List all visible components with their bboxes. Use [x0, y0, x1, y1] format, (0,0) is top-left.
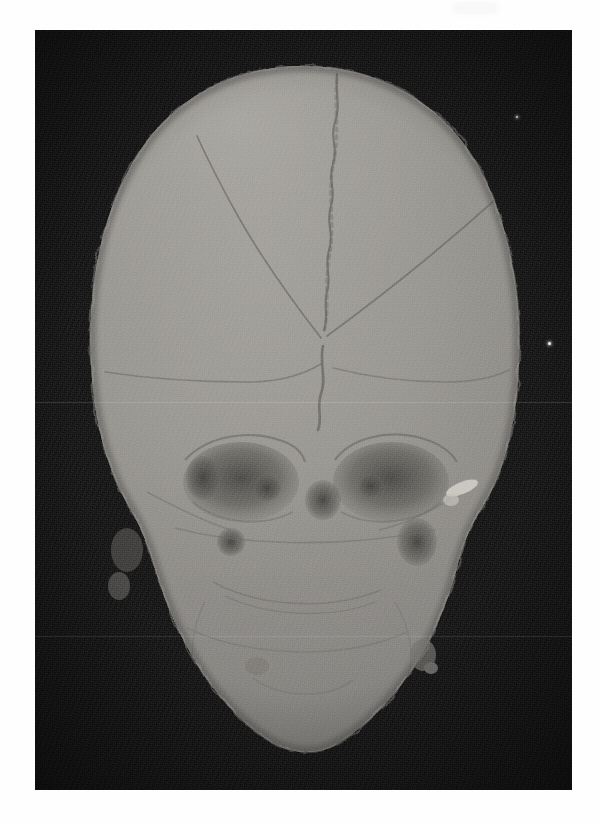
figure-page	[0, 0, 600, 825]
paper-scan-artifact	[452, 2, 498, 14]
temporal-region-left	[108, 528, 143, 600]
mandible-fragment-right	[410, 639, 438, 674]
skull-render	[35, 30, 572, 790]
radiograph-plate	[35, 30, 572, 790]
bone-texture-overlay	[35, 30, 572, 790]
skull-body	[35, 30, 572, 790]
